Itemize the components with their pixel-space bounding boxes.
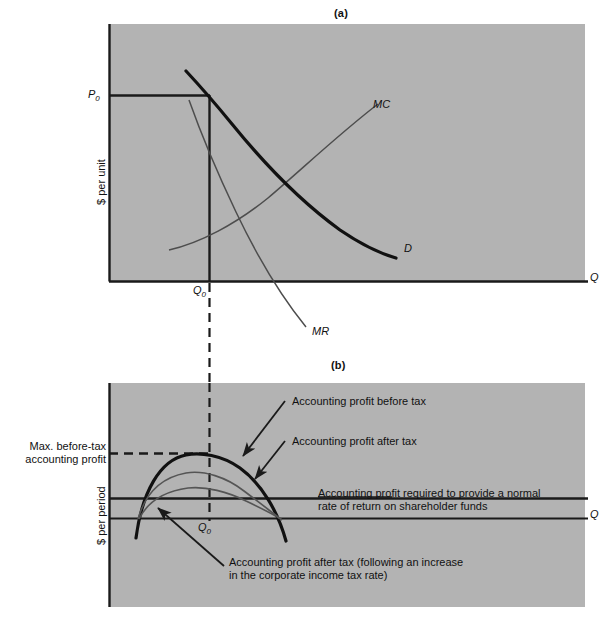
panel-a-label-mr: MR [312, 325, 329, 337]
panel-a-x-axis-label: Q [590, 271, 599, 283]
annotation-after-tax: Accounting profit after tax [292, 435, 417, 448]
panel-a-background [109, 24, 585, 281]
annotation-normal-return: Accounting profit required to provide a … [318, 487, 541, 513]
panel-a-quantity-label: Q0 [193, 284, 206, 299]
annotation-before-tax: Accounting profit before tax [292, 395, 426, 408]
panel-a-y-axis-label: $ per unit [95, 159, 107, 205]
panel-a-label-d: D [404, 242, 412, 254]
panel-b-quantity-label: Q0 [198, 521, 211, 536]
panel-b-max-profit-label: Max. before-tax accounting profit [8, 440, 106, 466]
panel-b-y-axis-label: $ per period [95, 486, 107, 545]
panel-b-title: (b) [331, 359, 346, 371]
panel-a-title: (a) [334, 7, 348, 19]
figure-root: (a) $ per unit P0 Q0 Q MC D MR (b) $ per… [0, 0, 612, 624]
panel-a-price-label: P0 [88, 88, 100, 103]
panel-a-group [109, 24, 588, 383]
panel-a-label-mc: MC [373, 98, 390, 110]
annotation-after-tax-increase: Accounting profit after tax (following a… [229, 556, 463, 582]
panel-b-x-axis-label: Q [590, 508, 599, 520]
